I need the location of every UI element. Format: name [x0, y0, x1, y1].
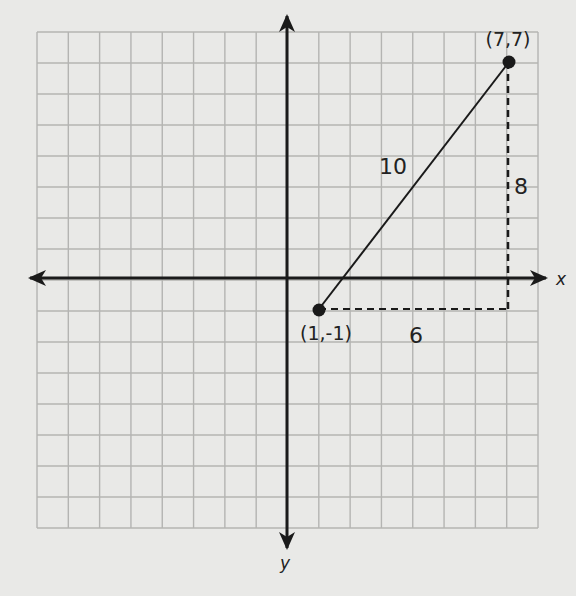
x-axis-label: x: [555, 269, 567, 289]
hypotenuse-label: 10: [379, 154, 407, 179]
point-1-neg1: [313, 304, 326, 317]
horizontal-leg-label: 6: [409, 323, 423, 348]
point-7-7: [503, 56, 516, 69]
hypotenuse-segment: [319, 62, 509, 309]
vertical-leg-label: 8: [514, 174, 528, 199]
point-b-label: (7,7): [485, 28, 530, 50]
coordinate-plane: (7,7) (1,-1) 10 8 6 x y: [0, 0, 576, 596]
y-axis-label: y: [279, 553, 291, 573]
point-a-label: (1,-1): [300, 322, 352, 344]
